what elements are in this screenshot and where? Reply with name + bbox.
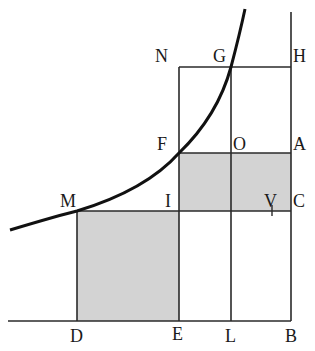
label-h: H [293,46,306,66]
shaded-rectangle-mdei [77,211,179,321]
label-a: A [293,134,306,154]
diagram-canvas: N G H F O A M I V C D E L B [0,0,315,351]
label-c: C [293,191,305,211]
label-i: I [165,191,171,211]
diagram: N G H F O A M I V C D E L B [0,0,315,351]
label-d: D [70,326,83,346]
label-n: N [155,46,168,66]
label-g: G [213,46,226,66]
label-f: F [157,134,167,154]
label-b: B [285,326,297,346]
label-v: V [264,191,277,211]
label-l: L [225,326,236,346]
label-m: M [60,191,76,211]
label-o: O [233,134,246,154]
label-e: E [172,324,183,344]
